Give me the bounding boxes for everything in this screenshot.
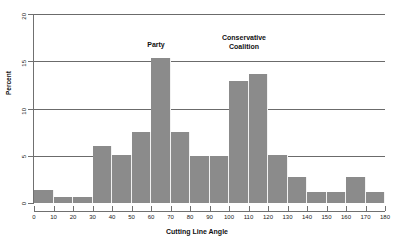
y-tick-label-5: 5	[21, 155, 27, 158]
x-tick-label-170: 170	[356, 214, 376, 220]
y-tick-mark-5	[28, 156, 33, 157]
bar-0-10	[34, 190, 54, 203]
x-tick-mark-20	[73, 206, 74, 211]
bar-150-160	[327, 192, 347, 203]
x-tick-mark-50	[132, 206, 133, 211]
x-tick-mark-90	[210, 206, 211, 211]
x-axis-line	[34, 211, 385, 212]
y-tick-label-15: 15	[21, 60, 27, 67]
x-tick-label-90: 90	[200, 214, 220, 220]
x-tick-mark-100	[229, 206, 230, 211]
x-tick-mark-0	[34, 206, 35, 211]
x-axis-title: Cutting Line Angle	[0, 228, 394, 235]
bar-100-110	[229, 81, 249, 203]
bar-70-80	[171, 132, 191, 203]
x-tick-label-130: 130	[278, 214, 298, 220]
bar-90-100	[210, 156, 230, 203]
bar-80-90	[190, 156, 210, 203]
x-tick-mark-60	[151, 206, 152, 211]
x-tick-mark-30	[93, 206, 94, 211]
x-tick-label-150: 150	[317, 214, 337, 220]
x-tick-mark-80	[190, 206, 191, 211]
y-tick-label-0: 0	[21, 202, 27, 205]
y-tick-mark-0	[28, 203, 33, 204]
x-tick-label-20: 20	[63, 214, 83, 220]
bar-160-170	[346, 177, 366, 203]
x-tick-label-50: 50	[122, 214, 142, 220]
y-tick-mark-20	[28, 14, 33, 15]
x-tick-label-160: 160	[336, 214, 356, 220]
x-tick-label-110: 110	[239, 214, 259, 220]
x-tick-label-80: 80	[180, 214, 200, 220]
bar-30-40	[93, 146, 113, 203]
bar-140-150	[307, 192, 327, 203]
x-tick-mark-70	[171, 206, 172, 211]
annotation-conservative-coalition: Conservative Coalition	[206, 33, 282, 51]
x-tick-mark-130	[288, 206, 289, 211]
x-tick-mark-110	[249, 206, 250, 211]
x-tick-mark-170	[366, 206, 367, 211]
bar-10-20	[54, 197, 74, 203]
x-tick-label-10: 10	[44, 214, 64, 220]
y-tick-mark-15	[28, 61, 33, 62]
x-tick-mark-140	[307, 206, 308, 211]
bar-130-140	[288, 177, 308, 203]
x-tick-mark-160	[346, 206, 347, 211]
x-tick-label-120: 120	[258, 214, 278, 220]
bar-40-50	[112, 155, 132, 203]
x-tick-mark-40	[112, 206, 113, 211]
x-tick-label-40: 40	[102, 214, 122, 220]
x-tick-label-70: 70	[161, 214, 181, 220]
y-tick-mark-10	[28, 109, 33, 110]
x-tick-mark-150	[327, 206, 328, 211]
bar-60-70	[151, 58, 171, 203]
x-tick-label-60: 60	[141, 214, 161, 220]
x-tick-label-140: 140	[297, 214, 317, 220]
y-axis-title: Percent	[5, 71, 12, 95]
annotation-party: Party	[134, 40, 178, 49]
x-tick-label-180: 180	[375, 214, 394, 220]
bar-170-180	[366, 192, 386, 203]
histogram-figure: Percent 05101520 01020304050607080901001…	[0, 0, 394, 252]
bar-20-30	[73, 197, 93, 203]
x-tick-mark-180	[385, 206, 386, 211]
bar-120-130	[268, 155, 288, 203]
bar-50-60	[132, 132, 152, 203]
x-tick-mark-10	[54, 206, 55, 211]
y-tick-label-20: 20	[21, 13, 27, 20]
x-tick-label-0: 0	[24, 214, 44, 220]
x-tick-label-30: 30	[83, 214, 103, 220]
y-tick-label-10: 10	[21, 108, 27, 115]
x-tick-mark-120	[268, 206, 269, 211]
bar-110-120	[249, 74, 269, 203]
x-tick-label-100: 100	[219, 214, 239, 220]
